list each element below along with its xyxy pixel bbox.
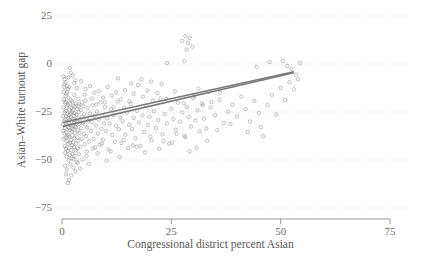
data-point [248, 120, 251, 123]
data-point [268, 60, 271, 63]
data-point [89, 129, 92, 132]
data-point [154, 126, 157, 129]
data-point [150, 80, 153, 83]
data-point [77, 153, 80, 156]
data-point [71, 74, 74, 77]
data-point [275, 113, 278, 116]
data-point [141, 95, 144, 98]
data-point [107, 148, 110, 151]
data-point [185, 105, 188, 108]
data-point [198, 130, 201, 133]
data-point [286, 64, 289, 67]
data-point [205, 127, 208, 130]
data-point [74, 101, 77, 104]
data-point [106, 85, 109, 88]
data-point [165, 122, 168, 125]
data-point [246, 130, 249, 133]
data-point [109, 150, 112, 153]
data-point [115, 91, 118, 94]
data-point [146, 89, 149, 92]
data-point [255, 65, 258, 68]
data-point [213, 114, 216, 117]
data-point [74, 149, 77, 152]
data-point [218, 98, 221, 101]
data-point [84, 87, 87, 90]
data-point [116, 77, 119, 80]
data-point [108, 122, 111, 125]
data-point [83, 143, 86, 146]
data-point [63, 164, 66, 167]
data-point [101, 96, 104, 99]
data-point [174, 128, 177, 131]
data-point [283, 98, 286, 101]
data-point [194, 119, 197, 122]
data-point [189, 125, 192, 128]
data-point [101, 138, 104, 141]
data-point [299, 61, 302, 64]
data-point [292, 88, 295, 91]
data-point [281, 59, 284, 62]
data-point [115, 124, 118, 127]
y-tick-label: −75 [0, 202, 52, 213]
data-point [175, 132, 178, 135]
fit-line [63, 73, 294, 127]
data-point [185, 48, 188, 51]
data-point [131, 144, 134, 147]
data-point [130, 127, 133, 130]
data-point [110, 94, 113, 97]
data-point [67, 146, 70, 149]
data-point [65, 168, 68, 171]
data-point [143, 151, 146, 154]
data-point [229, 122, 232, 125]
data-point [93, 91, 96, 94]
data-point [134, 136, 137, 139]
data-point [76, 97, 79, 100]
data-point [202, 117, 205, 120]
data-point [119, 98, 122, 101]
data-point [88, 84, 91, 87]
scatter-plot-figure: 250−25−50−75 0255075 Asian–White turnout… [0, 0, 421, 265]
data-point [92, 137, 95, 140]
data-point [80, 101, 83, 104]
data-point [150, 139, 153, 142]
data-point [122, 138, 125, 141]
data-point [77, 139, 80, 142]
data-point [176, 101, 179, 104]
data-point [156, 91, 159, 94]
data-point [118, 155, 121, 158]
data-point [94, 124, 97, 127]
data-point [111, 133, 114, 136]
data-point [162, 139, 165, 142]
data-point [191, 45, 194, 48]
data-point [62, 106, 65, 109]
x-tick-label: 75 [370, 226, 410, 237]
data-point [73, 131, 76, 134]
data-point [266, 103, 269, 106]
data-point [197, 87, 200, 90]
data-point [94, 103, 97, 106]
data-point [157, 147, 160, 150]
data-point [66, 181, 69, 184]
data-point [121, 120, 124, 123]
data-point [113, 140, 116, 143]
data-point [288, 81, 291, 84]
axis-lines-group [62, 219, 390, 224]
data-point [120, 141, 123, 144]
data-point [160, 82, 163, 85]
data-point [102, 122, 105, 125]
data-point [90, 97, 93, 100]
data-points-group [61, 34, 302, 184]
data-point [143, 130, 146, 133]
data-point [80, 126, 83, 129]
data-point [173, 90, 176, 93]
data-point [187, 115, 190, 118]
data-point [96, 152, 99, 155]
data-point [79, 145, 82, 148]
data-point [137, 121, 140, 124]
data-point [64, 173, 67, 176]
data-point [195, 146, 198, 149]
data-point [74, 170, 77, 173]
data-point [83, 113, 86, 116]
data-point [141, 114, 144, 117]
data-point [72, 166, 75, 169]
